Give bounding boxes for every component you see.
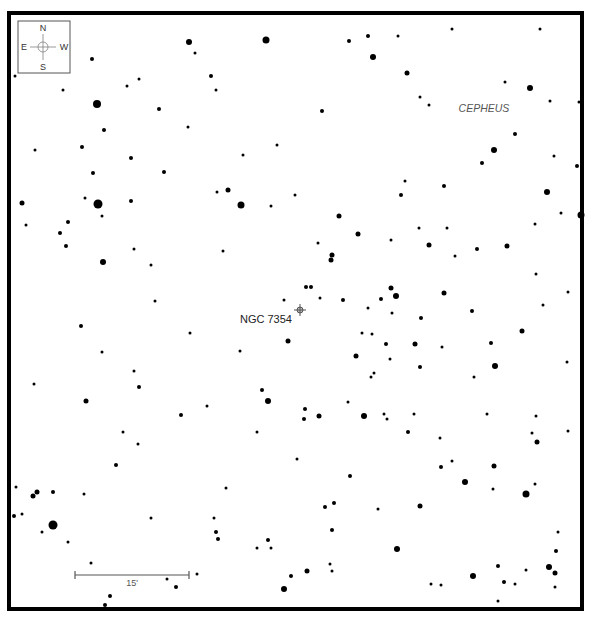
star: [215, 89, 218, 92]
star: [296, 458, 299, 461]
star: [397, 35, 400, 38]
star: [270, 547, 273, 550]
star: [35, 490, 40, 495]
star: [222, 250, 225, 253]
star: [348, 474, 352, 478]
star: [470, 309, 474, 313]
star: [91, 171, 95, 175]
star: [535, 440, 540, 445]
star: [329, 563, 332, 566]
star: [238, 202, 245, 209]
star: [80, 145, 84, 149]
star: [367, 307, 370, 310]
star: [305, 569, 310, 574]
object-label: NGC 7354: [240, 313, 292, 325]
star: [256, 547, 259, 550]
star: [341, 298, 345, 302]
star: [514, 583, 517, 586]
star: [309, 285, 313, 289]
star: [542, 304, 545, 307]
star: [567, 291, 570, 294]
star: [122, 431, 125, 434]
compass-east-label: E: [21, 42, 27, 52]
star: [486, 413, 489, 416]
chart-background: [0, 0, 592, 624]
star: [239, 350, 242, 353]
star: [553, 571, 558, 576]
star: [492, 363, 498, 369]
star: [384, 342, 388, 346]
star: [489, 341, 493, 345]
star: [20, 201, 25, 206]
star: [505, 244, 510, 249]
star: [404, 180, 407, 183]
star: [157, 107, 161, 111]
star: [58, 231, 62, 235]
star: [379, 297, 383, 301]
star: [129, 199, 133, 203]
star: [294, 194, 297, 197]
star: [64, 244, 68, 248]
star: [206, 405, 209, 408]
star: [337, 214, 342, 219]
star: [21, 513, 24, 516]
star: [553, 155, 556, 158]
star: [566, 361, 569, 364]
star: [179, 413, 183, 417]
star: [370, 376, 373, 379]
star-chart: N S E W CEPHEUS NGC 7354 15': [0, 0, 592, 624]
star: [93, 100, 101, 108]
star: [575, 164, 579, 168]
star: [390, 239, 393, 242]
star: [101, 351, 104, 354]
star: [451, 28, 454, 31]
compass-south-label: S: [40, 62, 46, 72]
star: [419, 316, 423, 320]
star: [150, 517, 153, 520]
compass-west-label: W: [60, 42, 69, 52]
star: [557, 531, 560, 534]
star: [347, 401, 350, 404]
star: [266, 538, 270, 542]
star: [90, 57, 94, 61]
star: [129, 156, 133, 160]
star: [102, 128, 106, 132]
star: [330, 528, 334, 532]
star: [491, 147, 497, 153]
star: [391, 312, 394, 315]
star: [454, 255, 457, 258]
star: [356, 232, 361, 237]
star: [330, 253, 335, 258]
star: [187, 126, 190, 129]
star: [79, 324, 83, 328]
star: [442, 291, 447, 296]
star: [67, 541, 70, 544]
star: [31, 494, 36, 499]
star: [560, 212, 563, 215]
star: [103, 603, 107, 607]
star: [114, 463, 118, 467]
star: [137, 443, 140, 446]
star: [492, 464, 497, 469]
constellation-label: CEPHEUS: [459, 102, 510, 114]
star: [213, 517, 216, 520]
star: [100, 259, 106, 265]
star: [504, 81, 507, 84]
star: [413, 342, 418, 347]
star: [320, 109, 324, 113]
star: [406, 430, 410, 434]
star: [209, 74, 213, 78]
star: [33, 383, 36, 386]
star: [323, 505, 327, 509]
star: [154, 300, 157, 303]
star: [265, 398, 271, 404]
star: [66, 220, 70, 224]
star: [137, 385, 141, 389]
star: [317, 414, 322, 419]
star: [289, 574, 293, 578]
star: [520, 329, 525, 334]
star: [34, 149, 37, 152]
star: [525, 569, 528, 572]
star: [41, 531, 44, 534]
star: [430, 583, 433, 586]
